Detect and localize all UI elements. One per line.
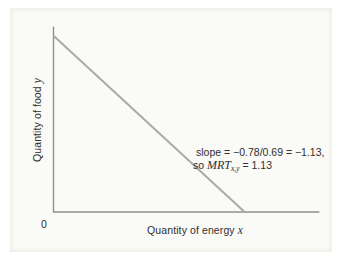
x-axis-label-text: Quantity of energy xyxy=(147,224,238,236)
mrt-subscript: x,y xyxy=(231,164,240,173)
y-axis-variable: y xyxy=(31,78,43,83)
transformation-line xyxy=(54,36,245,212)
y-axis-label-text: Quantity of food xyxy=(31,83,43,162)
mrt-variable: MRT xyxy=(207,158,231,172)
y-axis-label: Quantity of food y xyxy=(31,78,43,162)
x-axis-variable: x xyxy=(238,224,243,236)
mrt-value: = 1.13 xyxy=(240,159,272,171)
x-axis-label: Quantity of energy x xyxy=(147,224,243,236)
origin-label: 0 xyxy=(41,218,47,230)
mrt-prefix: so xyxy=(193,159,207,171)
chart-canvas xyxy=(0,0,345,256)
slope-annotation: slope = −0.78/0.69 = −1.13, so MRTx,y = … xyxy=(193,146,324,175)
slope-annotation-line2: so MRTx,y = 1.13 xyxy=(193,159,324,176)
